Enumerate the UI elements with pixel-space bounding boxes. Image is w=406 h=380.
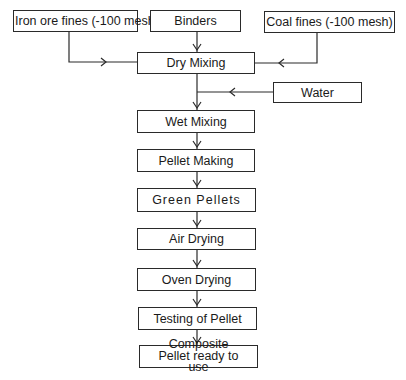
step-wet-mixing: Wet Mixing: [137, 110, 255, 133]
iron-ore-fines-box: Iron ore fines (-100 mesh): [13, 10, 138, 32]
iron-ore-fines-label: Iron ore fines (-100 mesh): [15, 15, 159, 27]
binders-label: Binders: [174, 15, 216, 27]
coal-fines-box: Coal fines (-100 mesh): [264, 11, 395, 33]
step-label: Testing of Pellet: [153, 313, 241, 325]
coal-fines-label: Coal fines (-100 mesh): [266, 16, 392, 28]
connector-iron-ore-to-dry-mixing: [69, 32, 137, 62]
connector-coal-to-dry-mixing: [255, 33, 317, 63]
binders-box: Binders: [150, 10, 241, 32]
step-oven-drying: Oven Drying: [137, 268, 256, 291]
step-green-pellets: Green Pellets: [137, 188, 256, 212]
step-dry-mixing: Dry Mixing: [137, 52, 255, 74]
step-pellet-making: Pellet Making: [137, 149, 255, 172]
step-label: Pellet Making: [158, 155, 233, 167]
step-label: Air Drying: [169, 233, 224, 245]
step-label: Composite Pellet ready to use: [154, 339, 243, 374]
water-box: Water: [273, 82, 362, 103]
step-label: Green Pellets: [152, 194, 241, 206]
step-label: Wet Mixing: [165, 116, 227, 128]
step-composite-pellet: Composite Pellet ready to use: [139, 345, 258, 368]
step-label: Dry Mixing: [166, 57, 225, 69]
water-label: Water: [301, 87, 334, 99]
step-air-drying: Air Drying: [137, 228, 256, 250]
step-label: Oven Drying: [162, 274, 231, 286]
step-testing-of-pellet: Testing of Pellet: [138, 307, 257, 330]
